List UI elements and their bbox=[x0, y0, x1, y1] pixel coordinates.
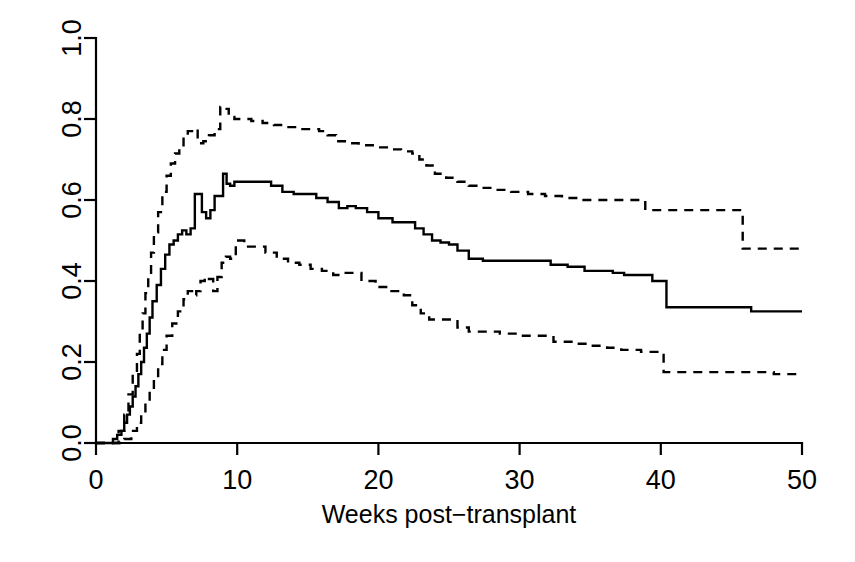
y-tick-label: 0.2 bbox=[57, 343, 87, 381]
x-axis: 01020304050 bbox=[88, 443, 817, 495]
y-tick-label: 0.8 bbox=[57, 100, 87, 138]
y-tick-label: 0.0 bbox=[57, 424, 87, 462]
x-tick-label: 50 bbox=[787, 465, 817, 495]
x-tick-label: 20 bbox=[363, 465, 393, 495]
x-tick-label: 10 bbox=[222, 465, 252, 495]
x-tick-label: 30 bbox=[505, 465, 535, 495]
y-axis: 0.00.20.40.60.81.0 bbox=[57, 19, 96, 462]
x-tick-marks bbox=[96, 443, 802, 455]
y-tick-label: 0.4 bbox=[57, 262, 87, 300]
y-tick-label: 0.6 bbox=[57, 181, 87, 219]
chart-figure: 0.00.20.40.60.81.0 01020304050 Weeks pos… bbox=[0, 0, 855, 562]
y-tick-label: 1.0 bbox=[57, 19, 87, 57]
x-tick-labels: 01020304050 bbox=[88, 465, 817, 495]
series-estimate bbox=[96, 174, 802, 443]
series-group bbox=[96, 107, 802, 443]
series-lower-confidence-band bbox=[96, 241, 802, 444]
series-upper-confidence-band bbox=[96, 107, 802, 443]
x-tick-label: 0 bbox=[88, 465, 103, 495]
y-tick-marks bbox=[84, 38, 96, 443]
step-plot: 0.00.20.40.60.81.0 01020304050 Weeks pos… bbox=[0, 0, 855, 562]
y-tick-labels: 0.00.20.40.60.81.0 bbox=[57, 19, 87, 462]
x-axis-title: Weeks post−transplant bbox=[322, 500, 577, 528]
x-tick-label: 40 bbox=[646, 465, 676, 495]
